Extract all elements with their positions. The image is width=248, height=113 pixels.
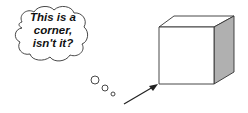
thought-bubble-text: This is a corner, isn't it?: [22, 11, 84, 50]
cube-icon: [159, 16, 234, 84]
bubble-line-3: isn't it?: [22, 37, 84, 50]
bubble-line-2: corner,: [22, 24, 84, 37]
diagram: This is a corner, isn't it?: [0, 0, 248, 113]
bubble-line-1: This is a: [22, 11, 84, 24]
arrow-icon: [124, 84, 158, 104]
